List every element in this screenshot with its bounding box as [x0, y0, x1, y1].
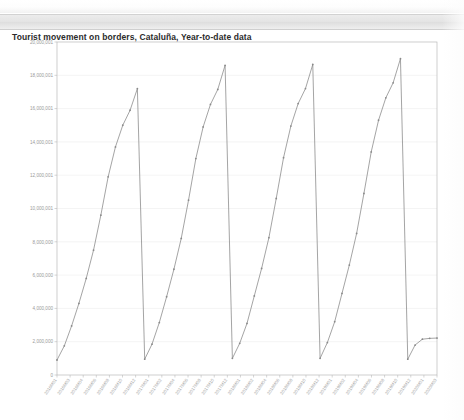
svg-text:8,000,000: 8,000,000	[33, 240, 54, 245]
scan-top-edge	[0, 0, 464, 13]
svg-text:16,000,001: 16,000,001	[30, 106, 53, 111]
y-axis-ticks	[55, 42, 58, 375]
chart-canvas: 20,000,00118,000,00116,000,00114,000,001…	[0, 30, 464, 420]
chart-title-bar: Tourist movement on borders, Cataluña, Y…	[0, 14, 464, 30]
svg-text:12,000,001: 12,000,001	[30, 173, 53, 178]
svg-text:20,000,001: 20,000,001	[30, 40, 53, 45]
svg-text:18,000,001: 18,000,001	[30, 73, 53, 78]
svg-text:2,000,000: 2,000,000	[33, 339, 54, 344]
svg-text:6,000,000: 6,000,000	[33, 273, 54, 278]
svg-text:4,000,000: 4,000,000	[33, 306, 54, 311]
svg-text:2020M03: 2020M03	[423, 377, 438, 395]
data-series-markers	[56, 58, 438, 361]
line-chart: 20,000,00118,000,00116,000,00114,000,001…	[0, 30, 464, 420]
svg-text:10,000,001: 10,000,001	[30, 206, 53, 211]
data-series-line	[57, 59, 437, 360]
svg-text:0: 0	[50, 373, 53, 378]
svg-text:14,000,001: 14,000,001	[30, 140, 53, 145]
y-axis-tick-labels: 20,000,00118,000,00116,000,00114,000,001…	[30, 40, 53, 378]
x-axis-ticks	[57, 375, 437, 378]
x-axis-tick-labels: 2016M012016M032016M042016M062016M082016M…	[43, 377, 438, 395]
